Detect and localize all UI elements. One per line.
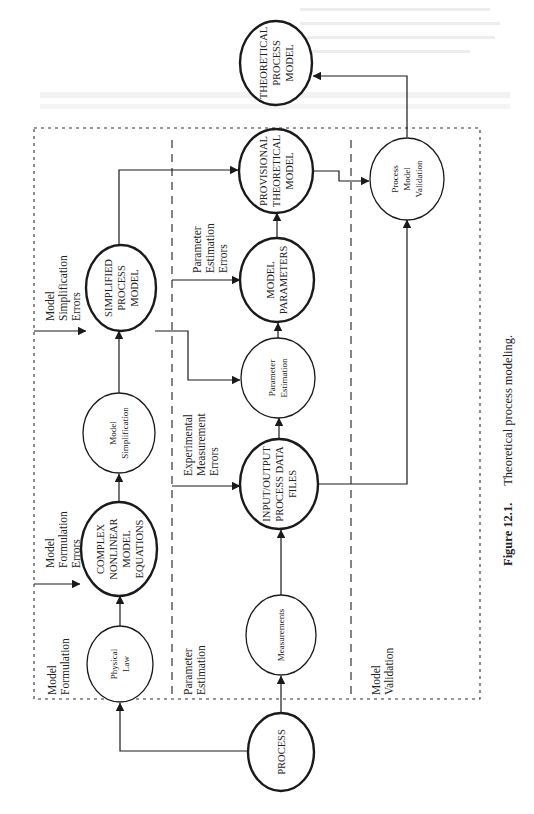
theoretical-process-modeling-diagram: THEORETICAL PROCESS MODEL PROVISIONAL TH…: [0, 0, 534, 814]
error-label-line: Measurement: [195, 413, 207, 476]
error-label-line: Experimental: [182, 414, 195, 476]
edge-simplified-provisional: [119, 170, 238, 246]
caption-text: Figure 12.1. Theoretical process modelin…: [501, 335, 515, 566]
region-label-model-formulation: Model Formulation: [46, 638, 71, 695]
node-label: PARAMETERS: [278, 246, 289, 315]
region-label-model-validation: Model Validation: [370, 647, 395, 695]
node-measurements: Measurements: [246, 595, 316, 675]
node-label: MODEL: [284, 152, 295, 189]
node-label: PROCESS: [116, 265, 127, 311]
error-label-line: Simplification: [57, 255, 70, 321]
error-label-line: Errors: [217, 244, 229, 273]
error-label-line: Model: [44, 291, 56, 321]
node-simplified-process-model: SIMPLIFIED PROCESS MODEL: [86, 245, 156, 331]
figure-title: Theoretical process modeling.: [501, 335, 515, 486]
node-label: Physical: [109, 648, 119, 679]
node-label: Law: [121, 656, 131, 672]
node-label: Parameter: [267, 360, 277, 396]
node-label: MODEL: [284, 44, 295, 81]
node-label: INPUT/OUTPUT: [261, 446, 272, 522]
region-label-line: Parameter: [182, 648, 194, 695]
region-label-line: Model: [370, 665, 382, 695]
edge-simplified-param-estimation: [155, 331, 240, 380]
node-theoretical-process-model: THEORETICAL PROCESS MODEL: [240, 21, 312, 105]
node-model-parameters: MODEL PARAMETERS: [240, 238, 314, 322]
region-label-line: Model: [46, 665, 58, 695]
node-label: NONLINEAR: [108, 518, 119, 579]
node-label: Validation: [414, 160, 424, 197]
node-label: THEORETICAL: [258, 27, 269, 99]
error-label-line: Parameter: [191, 226, 203, 273]
edge-iofiles-validation: [318, 220, 407, 484]
label-model-formulation-errors: Model Formulation Errors: [44, 511, 82, 568]
node-label: PROVISIONAL: [258, 136, 269, 206]
figure-number: Figure 12.1.: [501, 503, 515, 566]
node-label: PROCESS: [276, 729, 287, 775]
node-label: MODEL: [265, 261, 276, 298]
node-process: PROCESS: [248, 713, 314, 791]
node-provisional-theoretical-model: PROVISIONAL THEORETICAL MODEL: [239, 129, 313, 213]
node-label: Measurements: [276, 608, 286, 661]
node-label: PROCESS DATA: [274, 446, 285, 522]
node-model-simplification: Model Simplification: [83, 393, 155, 473]
node-label: MODEL: [121, 530, 132, 567]
node-label: SIMPLIFIED: [103, 259, 114, 317]
region-label-line: Formulation: [59, 638, 71, 695]
node-label: Simplification: [120, 407, 130, 459]
node-label: FILES: [287, 470, 298, 498]
node-physical-law: Physical Law: [87, 626, 153, 702]
region-label-line: Validation: [383, 647, 395, 695]
error-label-line: Estimation: [204, 223, 216, 273]
node-label: Estimation: [279, 358, 289, 397]
edge-process-physical-law: [120, 703, 248, 751]
node-label: MODEL: [129, 269, 140, 306]
node-label: COMPLEX: [95, 524, 106, 575]
node-label: Model: [402, 167, 412, 191]
region-label-line: Estimation: [195, 645, 207, 695]
figure-caption: Figure 12.1. Theoretical process modelin…: [501, 335, 515, 566]
node-label: Process: [390, 165, 400, 193]
edge-provisional-validation: [313, 171, 369, 181]
node-label: PROCESS: [271, 40, 282, 86]
error-label-line: Model: [44, 538, 56, 568]
node-label: Model: [108, 421, 118, 445]
error-label-line: Errors: [70, 292, 82, 321]
region-label-parameter-estimation: Parameter Estimation: [182, 645, 207, 695]
node-complex-nonlinear-model-equations: COMPLEX NONLINEAR MODEL EQUATIONS: [81, 502, 157, 596]
error-label-line: Errors: [208, 447, 220, 476]
label-model-simplification-errors: Model Simplification Errors: [44, 255, 82, 321]
label-experimental-measurement-errors: Experimental Measurement Errors: [182, 413, 220, 476]
node-parameter-estimation: Parameter Estimation: [241, 338, 315, 418]
label-parameter-estimation-errors: Parameter Estimation Errors: [191, 223, 229, 273]
node-label: EQUATIONS: [134, 519, 145, 578]
node-process-model-validation: Process Model Validation: [370, 138, 444, 220]
node-io-process-data-files: INPUT/OUTPUT PROCESS DATA FILES: [240, 439, 318, 529]
node-label: THEORETICAL: [271, 135, 282, 207]
error-label-line: Formulation: [57, 511, 69, 568]
error-label-line: Errors: [70, 539, 82, 568]
